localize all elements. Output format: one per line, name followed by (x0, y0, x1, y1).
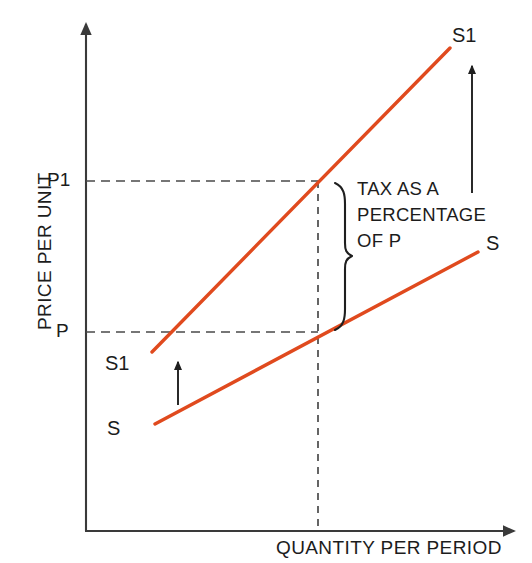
supply-tax-diagram: PRICE PER UNIT QUANTITY PER PERIOD P1 P … (0, 0, 532, 563)
diagram-canvas (0, 0, 532, 563)
curve-s-line (155, 252, 478, 424)
curve-label-s-right: S (486, 232, 499, 255)
tax-brace-icon (335, 183, 352, 330)
price-level-label-p: P (56, 320, 69, 342)
curve-label-s1-lower-left: S1 (105, 352, 129, 375)
curve-label-s-left: S (107, 417, 120, 440)
tax-annotation-text: TAX AS A PERCENTAGE OF P (357, 176, 486, 254)
x-axis-title: QUANTITY PER PERIOD (276, 537, 502, 559)
tax-annotation-line-1: TAX AS A (357, 176, 486, 202)
axis-group (85, 24, 514, 531)
tax-annotation-line-2: PERCENTAGE (357, 202, 486, 228)
tax-annotation-line-3: OF P (357, 228, 486, 254)
price-level-label-p1: P1 (47, 169, 70, 191)
curve-label-s1-upper-right: S1 (452, 24, 476, 47)
